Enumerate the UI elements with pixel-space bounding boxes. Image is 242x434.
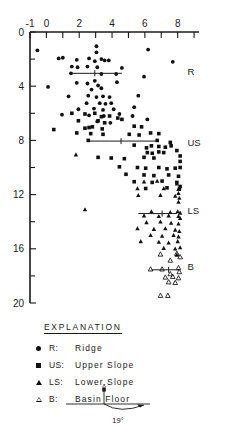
data-point xyxy=(87,126,91,130)
data-point xyxy=(175,149,179,153)
data-point xyxy=(83,126,87,130)
data-point xyxy=(162,246,166,250)
data-point xyxy=(173,280,178,284)
data-point xyxy=(160,267,165,271)
data-point xyxy=(118,112,122,116)
data-point xyxy=(61,56,65,60)
data-point xyxy=(85,101,89,105)
data-point xyxy=(150,181,154,185)
data-point xyxy=(35,48,39,52)
data-point xyxy=(152,156,156,160)
data-point xyxy=(178,160,182,164)
data-point xyxy=(75,131,79,135)
data-point xyxy=(67,94,71,98)
data-point xyxy=(108,121,112,125)
data-point xyxy=(137,133,141,137)
data-point xyxy=(83,112,87,116)
data-point xyxy=(123,157,127,161)
data-point xyxy=(146,48,150,52)
data-point xyxy=(165,186,169,190)
data-point xyxy=(157,214,161,218)
plot-area: -102468048121620RUSLSB xyxy=(0,0,242,322)
data-point xyxy=(103,121,107,125)
data-point xyxy=(100,127,104,131)
group-label-r: R xyxy=(188,66,195,77)
data-point xyxy=(131,114,135,118)
series-r xyxy=(35,44,174,124)
data-point xyxy=(177,196,181,200)
data-point xyxy=(168,258,173,262)
data-point xyxy=(178,154,182,158)
data-point xyxy=(157,240,161,244)
data-point xyxy=(157,166,161,170)
data-point xyxy=(176,191,180,195)
series-b xyxy=(148,251,182,297)
legend-label-upper-slope: Upper Slope xyxy=(75,360,134,370)
x-tick-label: 6 xyxy=(142,18,148,29)
data-point xyxy=(115,80,119,84)
filled-square-icon xyxy=(36,360,49,370)
data-point xyxy=(87,113,91,117)
data-point xyxy=(136,94,140,98)
data-point xyxy=(104,102,108,106)
data-point xyxy=(176,265,181,269)
data-point xyxy=(142,173,146,177)
data-point xyxy=(145,117,149,121)
angle-figure: x19° xyxy=(58,384,178,426)
data-point xyxy=(136,193,140,197)
x-tick-label: 4 xyxy=(109,18,115,29)
data-point xyxy=(144,220,148,224)
angle-value-label: 19° xyxy=(112,416,123,425)
legend-item-upper-slope: US:Upper Slope xyxy=(36,359,134,374)
group-label-ls: LS xyxy=(188,205,200,216)
data-point xyxy=(168,141,172,145)
data-point xyxy=(99,72,103,76)
data-point xyxy=(155,139,159,143)
legend-code-ridge: R: xyxy=(49,343,75,353)
data-point xyxy=(87,57,91,61)
data-point xyxy=(132,105,136,109)
group-label-b: B xyxy=(188,261,194,272)
data-point xyxy=(144,166,148,170)
data-point xyxy=(101,108,105,112)
data-point xyxy=(89,132,93,136)
data-point xyxy=(86,94,90,98)
data-point xyxy=(96,156,100,160)
y-tick-label: 4 xyxy=(18,81,24,92)
data-point xyxy=(135,186,139,190)
legend-code-upper-slope: US: xyxy=(49,360,75,370)
data-point xyxy=(163,226,167,230)
data-point xyxy=(173,166,177,170)
data-point xyxy=(114,72,118,76)
data-point xyxy=(118,165,122,169)
data-point xyxy=(95,65,99,69)
x-tick-label: 2 xyxy=(76,18,82,29)
y-tick-label: 0 xyxy=(18,27,24,38)
data-point xyxy=(92,107,96,111)
x-tick-label: -1 xyxy=(26,18,35,29)
data-point xyxy=(77,107,81,111)
legend-item-ridge: R:Ridge xyxy=(36,342,103,357)
x-tick-label: 8 xyxy=(175,18,181,29)
data-point xyxy=(101,94,105,98)
data-point xyxy=(96,119,100,123)
data-point xyxy=(86,139,90,143)
data-point xyxy=(142,179,146,183)
filled-triangle-icon xyxy=(36,377,49,387)
data-point xyxy=(145,146,149,150)
data-point xyxy=(124,172,128,176)
legend-label-ridge: Ridge xyxy=(75,343,103,353)
data-point xyxy=(166,280,171,284)
data-point xyxy=(149,131,153,135)
data-point xyxy=(91,125,95,129)
data-point xyxy=(52,128,56,132)
data-point xyxy=(177,175,181,179)
data-point xyxy=(150,144,154,148)
data-point xyxy=(132,143,136,147)
data-point xyxy=(120,118,124,122)
series-us xyxy=(52,112,182,191)
data-point xyxy=(173,247,177,251)
data-point xyxy=(148,267,153,271)
data-point xyxy=(177,229,181,233)
data-point xyxy=(171,233,175,237)
